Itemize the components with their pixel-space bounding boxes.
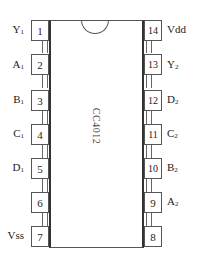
pin-1: 1 — [31, 20, 49, 41]
pin-connector — [42, 145, 48, 158]
pin-10: 10 — [144, 158, 162, 179]
pin-connector — [42, 111, 48, 124]
pin-9: 9 — [144, 192, 162, 213]
pin-connector — [146, 111, 152, 124]
pin-connector — [42, 213, 48, 226]
pin-connector — [42, 179, 48, 192]
pin-2: 2 — [31, 54, 49, 75]
chip-part-number: CC4012 — [91, 108, 102, 144]
pin-connector — [146, 75, 152, 88]
pin-5: 5 — [31, 158, 49, 179]
pin-9-label: A2 — [167, 195, 178, 208]
pin-7: 7 — [31, 226, 49, 247]
pin-connector — [146, 179, 152, 192]
pin-12: 12 — [144, 90, 162, 111]
pin-6: 6 — [31, 192, 49, 213]
pin-13-label: Y2 — [167, 58, 178, 71]
pin-connector — [42, 40, 48, 53]
pin-4: 4 — [31, 124, 49, 145]
pin-13: 13 — [144, 54, 162, 75]
pin-12-label: D2 — [167, 93, 178, 106]
pin-2-label: A1 — [13, 58, 24, 71]
pin-connector — [42, 75, 48, 88]
pin-1-label: Y1 — [13, 23, 24, 36]
pin-10-label: B2 — [167, 161, 178, 174]
pin-8: 8 — [144, 226, 162, 247]
pin-connector — [146, 213, 152, 226]
pin-3: 3 — [31, 90, 49, 111]
pin-11-label: C2 — [167, 127, 178, 140]
pin-3-label: B1 — [13, 93, 24, 106]
pin-connector — [146, 40, 152, 53]
pin-5-label: D1 — [13, 161, 24, 174]
pin-4-label: C1 — [13, 127, 24, 140]
pin-7-label: Vss — [7, 229, 24, 241]
pin-connector — [146, 145, 152, 158]
pin-11: 11 — [144, 124, 162, 145]
pin-14: 14 — [144, 20, 162, 41]
pin-14-label: Vdd — [167, 23, 186, 35]
